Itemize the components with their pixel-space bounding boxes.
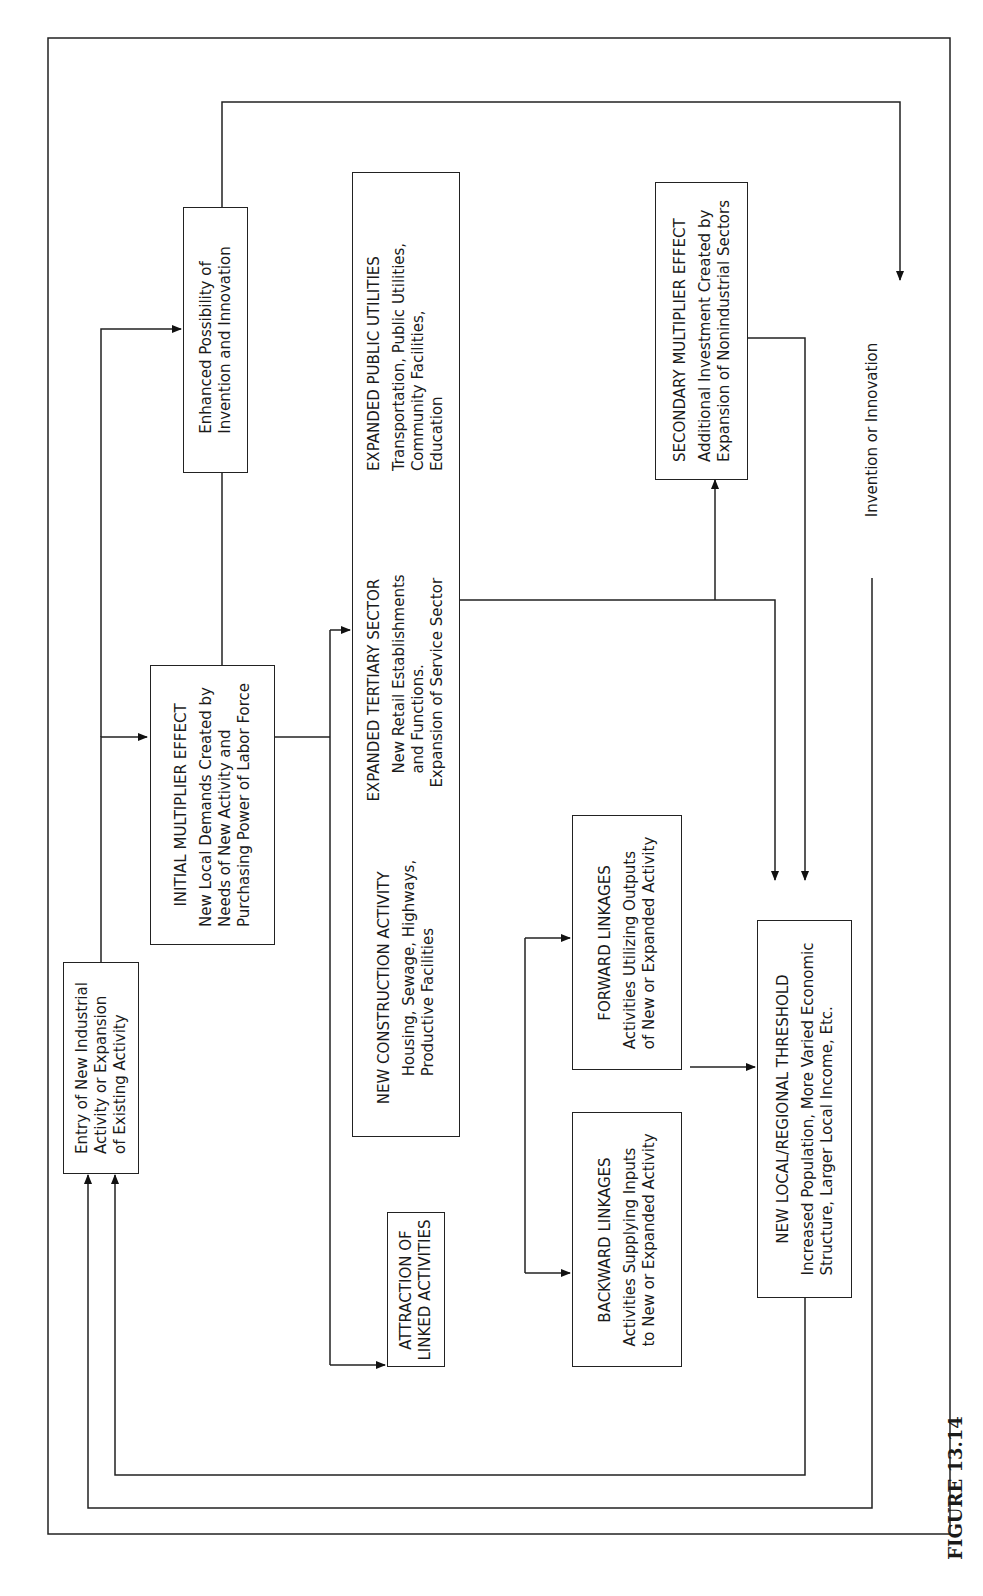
node-threshold: NEW LOCAL/REGIONAL THRESHOLD Increased P… (757, 920, 852, 1298)
figure-caption: FIGURE 13.14 (945, 1416, 966, 1560)
node-tertiary: EXPANDED TERTIARY SECTOR New Retail Esta… (352, 545, 460, 830)
node-entry-text: Entry of New Industrial Activity or Expa… (73, 982, 130, 1154)
node-forward-text: FORWARD LINKAGES Activities Utilizing Ou… (596, 836, 659, 1049)
node-enhanced-text: Enhanced Possibility of Invention and In… (197, 246, 235, 433)
node-backward-text: BACKWARD LINKAGES Activities Supplying I… (596, 1133, 659, 1346)
node-tertiary-text: EXPANDED TERTIARY SECTOR New Retail Esta… (365, 574, 447, 801)
connector-lines (0, 0, 983, 1596)
node-threshold-text: NEW LOCAL/REGIONAL THRESHOLD Increased P… (773, 943, 836, 1276)
node-utilities: EXPANDED PUBLIC UTILITIES Transportation… (352, 172, 460, 542)
edge-label-invention: Invention or Innovation (863, 337, 881, 524)
node-initial-multiplier: INITIAL MULTIPLIER EFFECT New Local Dema… (150, 665, 275, 945)
node-secondary-text: SECONDARY MULTIPLIER EFFECT Additional I… (670, 200, 733, 462)
node-attraction-text: ATTRACTION OF LINKED ACTIVITIES (397, 1219, 435, 1360)
node-backward-linkages: BACKWARD LINKAGES Activities Supplying I… (572, 1112, 682, 1367)
node-utilities-text: EXPANDED PUBLIC UTILITIES Transportation… (365, 243, 447, 471)
node-entry: Entry of New Industrial Activity or Expa… (63, 962, 139, 1174)
node-attraction: ATTRACTION OF LINKED ACTIVITIES (387, 1212, 445, 1367)
node-forward-linkages: FORWARD LINKAGES Activities Utilizing Ou… (572, 815, 682, 1070)
node-enhanced-possibility: Enhanced Possibility of Invention and In… (183, 207, 248, 473)
node-initial-text: INITIAL MULTIPLIER EFFECT New Local Dema… (172, 683, 254, 927)
node-construction-text: NEW CONSTRUCTION ACTIVITY Housing, Sewag… (375, 860, 438, 1104)
node-secondary-multiplier: SECONDARY MULTIPLIER EFFECT Additional I… (655, 182, 748, 480)
node-construction: NEW CONSTRUCTION ACTIVITY Housing, Sewag… (352, 832, 460, 1132)
